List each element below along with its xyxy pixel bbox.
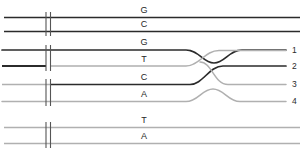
trace-line-row-4-right (51, 51, 286, 67)
row-letter-6: A (137, 90, 151, 99)
row-letter-8: A (137, 132, 151, 141)
row-letter-1: G (137, 6, 151, 15)
end-number-2: 2 (292, 62, 302, 71)
row-letter-3: G (137, 38, 151, 47)
trace-diagram-canvas: G C G T C A T A 1 2 3 4 (0, 0, 304, 149)
row-letter-7: T (137, 116, 151, 125)
row-letter-2: C (137, 20, 151, 29)
row-letter-5: C (137, 73, 151, 82)
row-letter-4: T (137, 55, 151, 64)
end-number-4: 4 (292, 97, 302, 106)
end-number-1: 1 (292, 46, 302, 55)
end-number-3: 3 (292, 80, 302, 89)
tick-break-group-middle-upper (46, 45, 51, 71)
tick-break-group-upper (46, 12, 51, 36)
trace-lines-group (0, 0, 304, 149)
trace-line-row-5-right (51, 66, 286, 85)
